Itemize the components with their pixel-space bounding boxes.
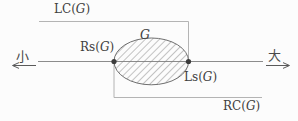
label-LC-suffix: ) <box>85 2 90 16</box>
label-Rs: Rs(G) <box>80 41 114 53</box>
right-endpoint-dot <box>186 59 191 64</box>
label-Ls-var: G <box>203 70 213 84</box>
label-LC-var: G <box>76 2 86 16</box>
label-set-G-var: G <box>140 27 150 42</box>
interval-bounds-diagram: LC(G) 小 Rs(G) G Ls(G) 大 RC(G) <box>0 0 298 121</box>
label-LC-prefix: LC( <box>54 2 76 16</box>
label-RC-suffix: ) <box>256 99 261 113</box>
label-RC-prefix: RC( <box>223 99 246 113</box>
label-axis-large: 大 <box>268 49 281 62</box>
label-RC-var: G <box>246 99 256 113</box>
label-LC: LC(G) <box>54 3 90 15</box>
label-set-G: G <box>140 29 150 42</box>
label-RC: RC(G) <box>223 100 260 112</box>
label-Rs-suffix: ) <box>109 40 114 54</box>
label-axis-small: 小 <box>16 50 29 63</box>
label-Ls-suffix: ) <box>212 70 217 84</box>
set-G-ellipse <box>114 38 189 85</box>
left-endpoint-dot <box>111 59 116 64</box>
label-Ls-prefix: Ls( <box>184 70 203 84</box>
label-Ls: Ls(G) <box>184 71 217 83</box>
label-Rs-prefix: Rs( <box>80 40 100 54</box>
right-direction-arrow-icon <box>266 63 290 69</box>
